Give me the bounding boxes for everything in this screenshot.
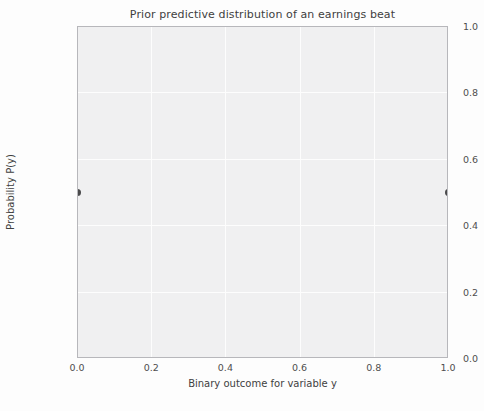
plot-area <box>77 26 448 358</box>
x-tick-label: 0.2 <box>131 362 171 373</box>
y-tick-label: 0.6 <box>416 153 484 164</box>
chart-title: Prior predictive distribution of an earn… <box>77 8 448 21</box>
gridline-vertical <box>151 26 152 358</box>
x-tick-label: 0.6 <box>280 362 320 373</box>
stem-line <box>77 192 78 358</box>
y-tick-label: 1.0 <box>416 21 484 32</box>
gridline-vertical <box>300 26 301 358</box>
x-tick-label: 0.0 <box>57 362 97 373</box>
data-point-marker <box>445 189 449 196</box>
data-point-marker <box>77 189 81 196</box>
y-tick-label: 0.4 <box>416 220 484 231</box>
gridline-horizontal <box>77 92 448 93</box>
gridline-horizontal <box>77 292 448 293</box>
gridline-horizontal <box>77 225 448 226</box>
gridline-vertical <box>225 26 226 358</box>
x-tick-label: 1.0 <box>428 362 468 373</box>
y-tick-label: 0.2 <box>416 286 484 297</box>
stem-line <box>447 192 448 358</box>
x-tick-label: 0.8 <box>354 362 394 373</box>
chart-figure: Prior predictive distribution of an earn… <box>0 0 484 411</box>
y-tick-label: 0.8 <box>416 87 484 98</box>
y-axis-label: Probability P(y) <box>0 26 22 358</box>
gridline-horizontal <box>77 159 448 160</box>
gridline-vertical <box>374 26 375 358</box>
x-tick-label: 0.4 <box>205 362 245 373</box>
x-axis-label: Binary outcome for variable y <box>77 378 448 389</box>
